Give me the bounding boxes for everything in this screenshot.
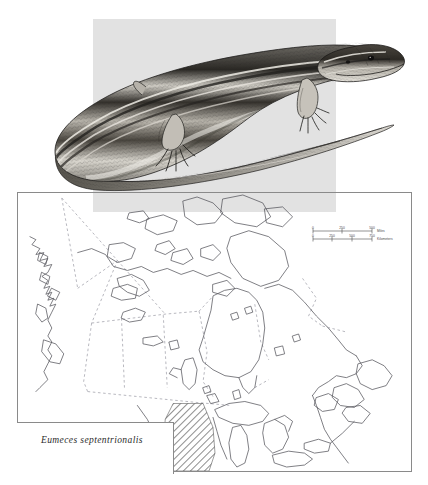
scale-miles-tick-0: 0 xyxy=(312,226,314,230)
species-label-box: Eumeces septentrionalis xyxy=(17,422,174,474)
species-name: Eumeces septentrionalis xyxy=(41,435,143,445)
scale-km-tick-250: 250 xyxy=(329,234,335,238)
skink-ear-opening xyxy=(346,60,350,63)
map-scale-bar: 0 250 500 Miles 0 250 500 750 Kilometers xyxy=(310,226,402,248)
scale-km-unit-label: Kilometers xyxy=(377,237,393,241)
field-guide-plate: 0 250 500 Miles 0 250 500 750 Kilometers… xyxy=(0,0,428,485)
distribution-map: 0 250 500 Miles 0 250 500 750 Kilometers… xyxy=(17,192,412,472)
scale-km-tick-0: 0 xyxy=(312,234,314,238)
scale-km-tick-500: 500 xyxy=(349,234,355,238)
scale-miles-unit-label: Miles xyxy=(377,229,385,233)
skink-illustration xyxy=(0,10,428,210)
skink-eye xyxy=(368,56,374,61)
scale-miles-tick-250: 250 xyxy=(339,226,345,230)
skink-fore-limb xyxy=(297,78,329,133)
scale-miles-tick-500: 500 xyxy=(369,226,375,230)
scale-km-tick-750: 750 xyxy=(369,234,375,238)
